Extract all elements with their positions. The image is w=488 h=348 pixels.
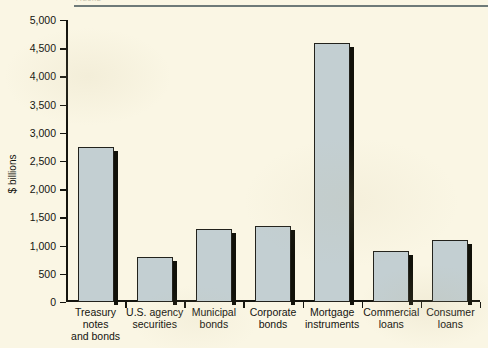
x-axis-label-line: loans bbox=[362, 318, 421, 330]
y-tick-label: 500 bbox=[38, 268, 56, 280]
y-tick-label: 1,000 bbox=[30, 240, 56, 252]
bar-shadow bbox=[114, 151, 118, 305]
bar bbox=[137, 257, 173, 302]
bar-shadow bbox=[291, 230, 295, 305]
header-band: FIGURE bbox=[74, 0, 488, 9]
x-axis-label: U.S. agencysecurities bbox=[125, 306, 184, 330]
bar-slot bbox=[243, 20, 302, 302]
x-axis-label: Mortgageinstruments bbox=[303, 306, 362, 330]
y-tick-label: 5,000 bbox=[30, 14, 56, 26]
bar-shadow bbox=[468, 244, 472, 305]
bar-shadow bbox=[232, 233, 236, 305]
bar-slot bbox=[125, 20, 184, 302]
x-axis-label-line: and bonds bbox=[66, 330, 125, 342]
x-axis-label-line: U.S. agency bbox=[125, 306, 184, 318]
x-axis-label-line: bonds bbox=[243, 318, 302, 330]
figure-caption: FIGURE bbox=[76, 0, 101, 2]
y-tick bbox=[60, 302, 66, 303]
x-axis-label-line: loans bbox=[421, 318, 480, 330]
x-axis-label-line: Consumer bbox=[421, 306, 480, 318]
y-tick-label: 3,500 bbox=[30, 99, 56, 111]
bar-series bbox=[66, 20, 480, 302]
bar bbox=[432, 240, 468, 302]
bar-shadow bbox=[409, 255, 413, 305]
x-axis-label-line: securities bbox=[125, 318, 184, 330]
plot-area: 05001,0001,5002,0002,5003,0003,5004,0004… bbox=[66, 20, 480, 302]
header-divider bbox=[74, 5, 488, 7]
y-tick-label: 4,500 bbox=[30, 42, 56, 54]
bar-shadow bbox=[350, 47, 354, 305]
x-tick bbox=[480, 302, 481, 308]
x-axis-label-line: bonds bbox=[184, 318, 243, 330]
x-axis-label-line: Corporate bbox=[243, 306, 302, 318]
x-axis-label-line: instruments bbox=[303, 318, 362, 330]
bar-slot bbox=[184, 20, 243, 302]
y-tick-label: 0 bbox=[50, 296, 56, 308]
y-tick-label: 2,500 bbox=[30, 155, 56, 167]
x-axis-label: Consumerloans bbox=[421, 306, 480, 330]
bar-slot bbox=[421, 20, 480, 302]
x-axis-label: Commercialloans bbox=[362, 306, 421, 330]
bar-slot bbox=[362, 20, 421, 302]
bar bbox=[314, 43, 350, 302]
bar bbox=[255, 226, 291, 302]
x-axis-label-line: Treasury bbox=[66, 306, 125, 318]
x-axis-labels: Treasurynotesand bondsU.S. agencysecurit… bbox=[66, 306, 480, 348]
x-axis-label-line: Municipal bbox=[184, 306, 243, 318]
bar-shadow bbox=[173, 261, 177, 305]
bar bbox=[373, 251, 409, 302]
x-axis-label-line: Mortgage bbox=[303, 306, 362, 318]
bar bbox=[78, 147, 114, 302]
chart-page: FIGURE $ billions 05001,0001,5002,0002,5… bbox=[0, 0, 488, 348]
bar-slot bbox=[66, 20, 125, 302]
x-axis-label-line: Commercial bbox=[362, 306, 421, 318]
y-tick-label: 3,000 bbox=[30, 127, 56, 139]
x-axis-label: Treasurynotesand bonds bbox=[66, 306, 125, 343]
x-axis-label: Corporatebonds bbox=[243, 306, 302, 330]
y-tick-label: 1,500 bbox=[30, 211, 56, 223]
y-tick-label: 2,000 bbox=[30, 183, 56, 195]
bar-slot bbox=[303, 20, 362, 302]
y-tick-label: 4,000 bbox=[30, 70, 56, 82]
x-axis-label: Municipalbonds bbox=[184, 306, 243, 330]
bar bbox=[196, 229, 232, 302]
y-axis-title: $ billions bbox=[7, 155, 18, 194]
x-axis-label-line: notes bbox=[66, 318, 125, 330]
